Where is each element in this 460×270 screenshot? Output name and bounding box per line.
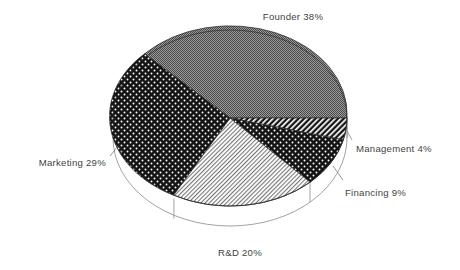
pie-chart-canvas: Founder 38% Management 4% Financing 9% R… <box>0 0 460 270</box>
leader-line-management <box>347 131 352 140</box>
label-rd: R&D 20% <box>218 247 262 258</box>
pie-chart: Founder 38% Management 4% Financing 9% R… <box>0 0 460 270</box>
label-financing: Financing 9% <box>345 187 406 198</box>
label-marketing: Marketing 29% <box>39 157 106 168</box>
pie-top-face <box>109 26 347 206</box>
label-founder: Founder 38% <box>263 11 324 22</box>
label-management: Management 4% <box>356 143 432 154</box>
